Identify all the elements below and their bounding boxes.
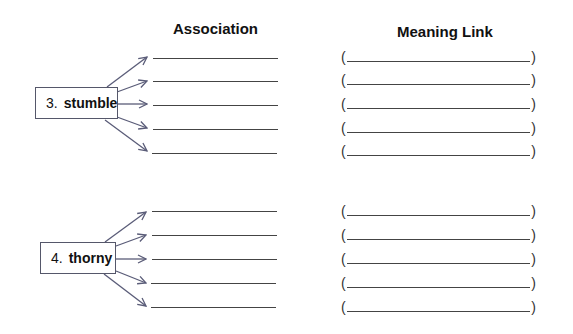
meaning-link-blank[interactable]: () bbox=[341, 203, 536, 221]
blank-line bbox=[347, 61, 530, 62]
association-blank[interactable] bbox=[151, 283, 276, 284]
open-paren: ( bbox=[341, 299, 346, 315]
close-paren: ) bbox=[531, 143, 536, 159]
blank-line bbox=[347, 108, 530, 109]
open-paren: ( bbox=[341, 72, 346, 88]
close-paren: ) bbox=[531, 299, 536, 315]
open-paren: ( bbox=[341, 251, 346, 267]
item-number: 4. bbox=[51, 250, 63, 266]
open-paren: ( bbox=[341, 275, 346, 291]
association-blank[interactable] bbox=[153, 58, 278, 59]
open-paren: ( bbox=[341, 203, 346, 219]
meaning-link-blank[interactable]: () bbox=[341, 299, 536, 317]
blank-line bbox=[347, 287, 530, 288]
open-paren: ( bbox=[341, 120, 346, 136]
blank-line bbox=[347, 215, 530, 216]
blank-line bbox=[347, 311, 530, 312]
word-box-stumble: 3. stumble bbox=[35, 87, 118, 119]
item-word: thorny bbox=[69, 250, 113, 266]
meaning-link-blank[interactable]: () bbox=[341, 96, 536, 114]
association-blank[interactable] bbox=[152, 235, 277, 236]
meaning-link-blank[interactable]: () bbox=[341, 227, 536, 245]
close-paren: ) bbox=[531, 49, 536, 65]
association-blank[interactable] bbox=[152, 211, 277, 212]
meaning-link-blank[interactable]: () bbox=[341, 120, 536, 138]
association-blank[interactable] bbox=[153, 129, 278, 130]
open-paren: ( bbox=[341, 227, 346, 243]
association-blank[interactable] bbox=[152, 259, 277, 260]
close-paren: ) bbox=[531, 120, 536, 136]
meaning-link-blank[interactable]: () bbox=[341, 49, 536, 67]
meaning-link-blank[interactable]: () bbox=[341, 251, 536, 269]
item-number: 3. bbox=[46, 95, 58, 111]
close-paren: ) bbox=[531, 227, 536, 243]
blank-line bbox=[347, 84, 530, 85]
close-paren: ) bbox=[531, 72, 536, 88]
association-blank[interactable] bbox=[152, 153, 277, 154]
open-paren: ( bbox=[341, 96, 346, 112]
blank-line bbox=[347, 239, 530, 240]
open-paren: ( bbox=[341, 143, 346, 159]
association-blank[interactable] bbox=[153, 105, 278, 106]
item-word: stumble bbox=[64, 95, 118, 111]
close-paren: ) bbox=[531, 203, 536, 219]
close-paren: ) bbox=[531, 251, 536, 267]
meaning-link-blank[interactable]: () bbox=[341, 143, 536, 161]
blank-line bbox=[347, 132, 530, 133]
word-box-thorny: 4. thorny bbox=[40, 242, 116, 274]
meaning-link-blank[interactable]: () bbox=[341, 72, 536, 90]
open-paren: ( bbox=[341, 49, 346, 65]
meaning-link-blank[interactable]: () bbox=[341, 275, 536, 293]
association-blank[interactable] bbox=[151, 307, 276, 308]
blank-line bbox=[347, 263, 530, 264]
blank-line bbox=[347, 155, 530, 156]
association-blank[interactable] bbox=[153, 81, 278, 82]
close-paren: ) bbox=[531, 275, 536, 291]
close-paren: ) bbox=[531, 96, 536, 112]
